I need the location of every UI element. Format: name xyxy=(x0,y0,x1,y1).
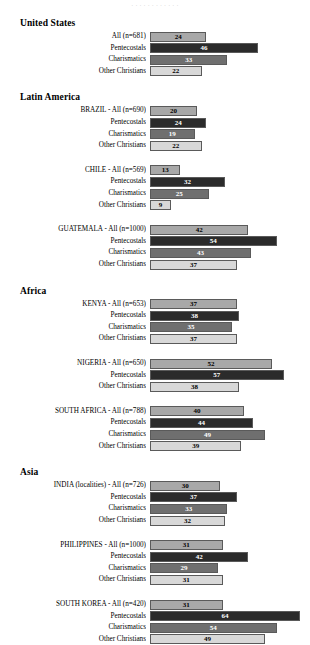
bar-value-label: 29 xyxy=(150,563,218,573)
bar-row: Charismatics54 xyxy=(0,622,310,633)
bar-row: KENYA - All (n=653)37 xyxy=(0,299,310,310)
bar-row: Charismatics29 xyxy=(0,563,310,574)
bar-value-label: 24 xyxy=(150,32,206,42)
bar-row-label: Pentecostals xyxy=(0,43,146,54)
bar-row-label: Charismatics xyxy=(0,247,146,258)
bar-value-label: 30 xyxy=(150,481,220,491)
bar-row: Charismatics43 xyxy=(0,247,310,258)
bar-value-label: 40 xyxy=(150,406,244,416)
bar-value-label: 39 xyxy=(150,441,241,451)
bar-row-label: Charismatics xyxy=(0,563,146,574)
bar-value-label: 54 xyxy=(150,623,277,633)
bar-row: PHILIPPINES - All (n=1000)31 xyxy=(0,540,310,551)
bar-row-label: Other Christians xyxy=(0,515,146,526)
bar-row-label: NIGERIA - All (n=650) xyxy=(0,358,146,369)
bar-row: NIGERIA - All (n=650)52 xyxy=(0,358,310,369)
bar-row-label: Pentecostals xyxy=(0,176,146,187)
bar-row-label: All (n=681) xyxy=(0,31,146,42)
bar-value-label: 54 xyxy=(150,236,277,246)
bar-value-label: 22 xyxy=(150,66,202,76)
bar-value-label: 20 xyxy=(150,106,197,116)
bar-value-label: 64 xyxy=(150,611,300,621)
bar-value-label: 38 xyxy=(150,382,239,392)
bar-row-label: Pentecostals xyxy=(0,117,146,128)
bar-row: Pentecostals32 xyxy=(0,176,310,187)
bar-value-label: 9 xyxy=(150,200,171,210)
bar-row: Pentecostals44 xyxy=(0,417,310,428)
bar-value-label: 33 xyxy=(150,504,227,514)
bar-row: Pentecostals24 xyxy=(0,117,310,128)
bar-row-label: Other Christians xyxy=(0,333,146,344)
bar-row: Charismatics25 xyxy=(0,188,310,199)
bar-row: Pentecostals64 xyxy=(0,611,310,622)
bar-row-label: PHILIPPINES - All (n=1000) xyxy=(0,540,146,551)
bar-row: Pentecostals38 xyxy=(0,310,310,321)
bar-value-label: 22 xyxy=(150,141,202,151)
bar-row: Other Christians22 xyxy=(0,140,310,151)
bar-row-label: Pentecostals xyxy=(0,551,146,562)
bar-value-label: 13 xyxy=(150,165,180,175)
bar-row: Charismatics49 xyxy=(0,429,310,440)
bar-row-label: Pentecostals xyxy=(0,370,146,381)
bar-row-label: SOUTH KOREA - All (n=420) xyxy=(0,599,146,610)
bar-row-label: CHILE - All (n=569) xyxy=(0,165,146,176)
bar-value-label: 25 xyxy=(150,189,209,199)
bar-row-label: Charismatics xyxy=(0,129,146,140)
bar-row: SOUTH AFRICA - All (n=788)40 xyxy=(0,406,310,417)
bar-row: Other Christians22 xyxy=(0,66,310,77)
bar-row-label: Pentecostals xyxy=(0,492,146,503)
bar-row-label: Other Christians xyxy=(0,259,146,270)
bar-value-label: 32 xyxy=(150,516,225,526)
bar-row: BRAZIL - All (n=690)20 xyxy=(0,105,310,116)
bar-row: Other Christians37 xyxy=(0,333,310,344)
bar-value-label: 37 xyxy=(150,260,237,270)
bar-row-label: Other Christians xyxy=(0,381,146,392)
bar-row: INDIA (localities) - All (n=726)30 xyxy=(0,480,310,491)
bar-value-label: 37 xyxy=(150,492,237,502)
region-header-united-states: United States xyxy=(20,18,75,28)
region-header-asia: Asia xyxy=(20,467,38,477)
top-cropped-text: · · · · · · · · · · · · xyxy=(0,0,310,12)
bar-row-label: Other Christians xyxy=(0,66,146,77)
bar-row: Pentecostals54 xyxy=(0,236,310,247)
bar-row: CHILE - All (n=569)13 xyxy=(0,165,310,176)
bar-row-label: Charismatics xyxy=(0,188,146,199)
bar-row: Pentecostals57 xyxy=(0,370,310,381)
bar-value-label: 37 xyxy=(150,334,237,344)
bar-value-label: 31 xyxy=(150,600,223,610)
bar-value-label: 33 xyxy=(150,55,227,65)
bar-row-label: Charismatics xyxy=(0,54,146,65)
bar-value-label: 37 xyxy=(150,299,237,309)
bar-value-label: 31 xyxy=(150,540,223,550)
bar-value-label: 38 xyxy=(150,311,239,321)
bar-row: Pentecostals37 xyxy=(0,492,310,503)
bar-row: Other Christians38 xyxy=(0,381,310,392)
region-header-africa: Africa xyxy=(20,286,46,296)
bar-row: Other Christians31 xyxy=(0,574,310,585)
bar-row: Other Christians32 xyxy=(0,515,310,526)
bar-row-label: Other Christians xyxy=(0,140,146,151)
bar-row: Pentecostals42 xyxy=(0,551,310,562)
bar-row-label: Other Christians xyxy=(0,634,146,645)
bar-value-label: 19 xyxy=(150,129,195,139)
bar-value-label: 57 xyxy=(150,370,284,380)
bar-row-label: Charismatics xyxy=(0,503,146,514)
bar-row-label: Pentecostals xyxy=(0,611,146,622)
bar-row: Charismatics19 xyxy=(0,129,310,140)
bar-row: Charismatics35 xyxy=(0,322,310,333)
bar-value-label: 32 xyxy=(150,177,225,187)
bar-value-label: 46 xyxy=(150,43,258,53)
bar-row-label: Pentecostals xyxy=(0,417,146,428)
bar-row-label: Other Christians xyxy=(0,574,146,585)
bar-row-label: KENYA - All (n=653) xyxy=(0,299,146,310)
bar-value-label: 52 xyxy=(150,359,272,369)
bar-value-label: 44 xyxy=(150,418,253,428)
bar-value-label: 49 xyxy=(150,430,265,440)
bar-value-label: 42 xyxy=(150,552,248,562)
bar-value-label: 42 xyxy=(150,225,248,235)
bar-row-label: BRAZIL - All (n=690) xyxy=(0,105,146,116)
bar-value-label: 43 xyxy=(150,248,251,258)
bar-value-label: 35 xyxy=(150,322,232,332)
bar-row: Other Christians37 xyxy=(0,259,310,270)
